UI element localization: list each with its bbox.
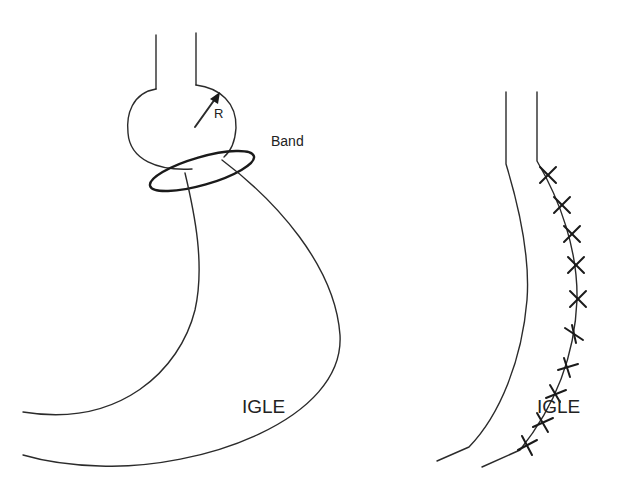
diagram-canvas: R Band IGLE IGLE <box>0 0 618 498</box>
left-panel <box>23 33 340 466</box>
gastric-pouch <box>128 85 236 169</box>
igle-label-right: IGLE <box>537 397 580 416</box>
suture-mark-icon <box>558 358 578 377</box>
suture-mark-icon <box>554 197 570 213</box>
igle-label-left: IGLE <box>242 397 285 416</box>
radius-label: R <box>214 107 223 120</box>
radius-arrow-shaft <box>195 99 215 127</box>
gastric-band <box>146 143 258 200</box>
suture-mark-icon <box>518 436 537 455</box>
stomach-inner-curve <box>23 173 199 415</box>
stomach-outer-curve <box>23 160 340 466</box>
sleeve-left-wall <box>437 92 528 461</box>
suture-mark-icon <box>564 226 580 242</box>
band-label: Band <box>271 134 304 148</box>
suture-mark-icon <box>570 291 586 307</box>
diagram-svg <box>0 0 618 498</box>
